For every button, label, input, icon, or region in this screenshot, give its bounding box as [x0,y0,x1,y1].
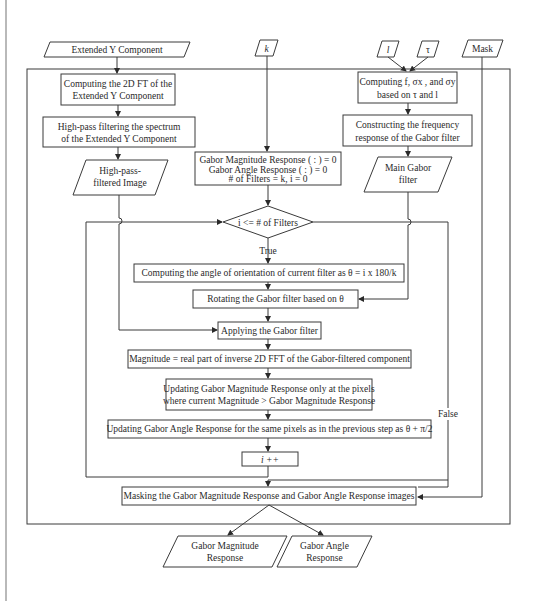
output-angle-line2: Response [306,553,342,563]
loop-condition-label: i <= # of Filters [238,218,298,228]
arrow-to-angle-output [269,505,323,535]
init-line3: # of Filters = k, i = 0 [229,174,308,184]
loop-condition-diamond: i <= # of Filters [223,206,313,238]
step-apply-label: Applying the Gabor filter [221,326,319,336]
mask-step: Masking the Gabor Magnitude Response and… [122,487,416,505]
flowchart: Extended Y Component k l τ Mask Computin… [0,0,536,601]
arrow-to-magnitude-output [228,505,269,535]
highpass-box: High-pass filtering the spectrum of the … [43,117,195,147]
main-gabor-filter-output: Main Gabor filter [364,157,452,192]
compute-params-box: Computing f, σx , and σy based on τ and … [358,72,457,103]
output-magnitude-line1: Gabor Magnitude [191,541,258,551]
fft-box-line2: Extended Y Component [72,91,163,101]
step-increment-label: i ++ [261,455,279,465]
output-magnitude: Gabor Magnitude Response [163,536,287,567]
step-compute-angle: Computing the angle of orientation of cu… [134,264,404,282]
arrow-image-to-apply [119,195,217,330]
mask-step-label: Masking the Gabor Magnitude Response and… [123,491,414,501]
compute-params-line2: based on τ and l [377,90,438,100]
main-filter-line1: Main Gabor [385,163,432,173]
step-magnitude-label: Magnitude = real part of inverse 2D FFT … [129,354,410,364]
step-rotate-label: Rotating the Gabor filter based on θ [207,294,344,304]
fft-box-line1: Computing the 2D FT of the [64,79,172,89]
step-update-magnitude: Updating Gabor Magnitude Response only a… [163,379,375,410]
highpass-image-line2: filtered Image [93,178,147,188]
step-update-angle-label: Updating Gabor Angle Response for the sa… [106,424,432,434]
construct-filter-box: Constructing the frequency response of t… [343,115,472,146]
input-mask-label: Mask [472,44,493,54]
construct-line2: response of the Gabor filter [355,133,460,143]
output-angle-line1: Gabor Angle [300,541,349,551]
highpass-box-line1: High-pass filtering the spectrum [58,122,181,132]
step-compute-angle-label: Computing the angle of orientation of cu… [141,268,396,278]
step-update-angle: Updating Gabor Angle Response for the sa… [106,420,432,438]
input-tau: τ [417,41,439,57]
compute-params-line1: Computing f, σx , and σy [359,77,455,87]
output-angle: Gabor Angle Response [277,536,372,567]
input-extended-y: Extended Y Component [44,42,190,57]
step-magnitude: Magnitude = real part of inverse 2D FFT … [128,350,411,368]
arrow-main-to-rotate [359,192,411,299]
main-filter-line2: filter [399,175,418,185]
arrow-false-to-masking [268,480,448,486]
step-apply-filter: Applying the Gabor filter [218,322,321,339]
input-l: l [377,41,399,57]
input-extended-y-label: Extended Y Component [71,45,162,55]
step-update-magnitude-line2: where current Magnitude > Gabor Magnitud… [163,396,375,406]
step-update-magnitude-line1: Updating Gabor Magnitude Response only a… [163,384,375,394]
true-label: True [259,246,277,256]
false-label: False [438,409,458,419]
step-increment: i ++ [242,452,298,466]
input-tau-label: τ [426,45,430,55]
step-rotate-filter: Rotating the Gabor filter based on θ [193,290,358,308]
fft-box: Computing the 2D FT of the Extended Y Co… [61,74,175,105]
construct-line1: Constructing the frequency [356,120,460,130]
input-l-label: l [387,45,390,55]
input-k: k [255,40,278,56]
highpass-image-output: High-pass- filtered Image [73,160,168,195]
output-magnitude-line2: Response [207,553,243,563]
highpass-image-line1: High-pass- [99,166,141,176]
input-mask: Mask [462,40,503,57]
init-box: Gabor Magnitude Response ( : ) = 0 Gabor… [195,152,341,185]
highpass-box-line2: of the Extended Y Component [61,134,177,144]
